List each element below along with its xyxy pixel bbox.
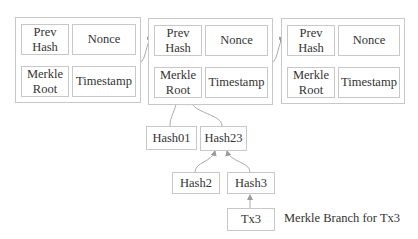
hash23-node: Hash23 [200,126,247,151]
block-header-2: Prev Hash Nonce Merkle Root Timestamp [148,18,273,105]
merkle-root-cell: Merkle Root [154,67,202,98]
timestamp-cell: Timestamp [72,66,136,97]
merkle-root-cell: Merkle Root [287,67,335,98]
block-header-3: Prev Hash Nonce Merkle Root Timestamp [281,18,405,104]
prev-hash-cell: Prev Hash [154,25,202,56]
hash2-node: Hash2 [172,172,220,194]
merkle-branch-caption: Merkle Branch for Tx3 [284,211,400,226]
nonce-cell: Nonce [205,25,268,56]
block-header-1: Prev Hash Nonce Merkle Root Timestamp [15,17,141,103]
tx3-node: Tx3 [227,208,275,231]
prev-hash-cell: Prev Hash [21,24,69,55]
timestamp-cell: Timestamp [205,67,268,98]
nonce-cell: Nonce [338,25,400,56]
hash01-node: Hash01 [146,126,197,150]
nonce-cell: Nonce [72,24,136,55]
merkle-root-cell: Merkle Root [21,66,69,97]
timestamp-cell: Timestamp [338,67,400,98]
hash3-node: Hash3 [227,172,275,194]
prev-hash-cell: Prev Hash [287,25,335,56]
